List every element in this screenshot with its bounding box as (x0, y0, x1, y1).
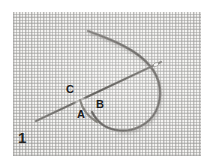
point-label-b: B (96, 99, 104, 110)
sewing-needle (36, 62, 161, 121)
figure-number: 1 (18, 130, 26, 145)
point-label-a: A (77, 109, 85, 120)
figure-image: C B A 1 (0, 0, 210, 162)
thread-loop (88, 31, 160, 131)
needle-eye-icon (153, 62, 159, 67)
stitch-illustration (0, 0, 210, 162)
point-label-c: C (66, 84, 74, 95)
